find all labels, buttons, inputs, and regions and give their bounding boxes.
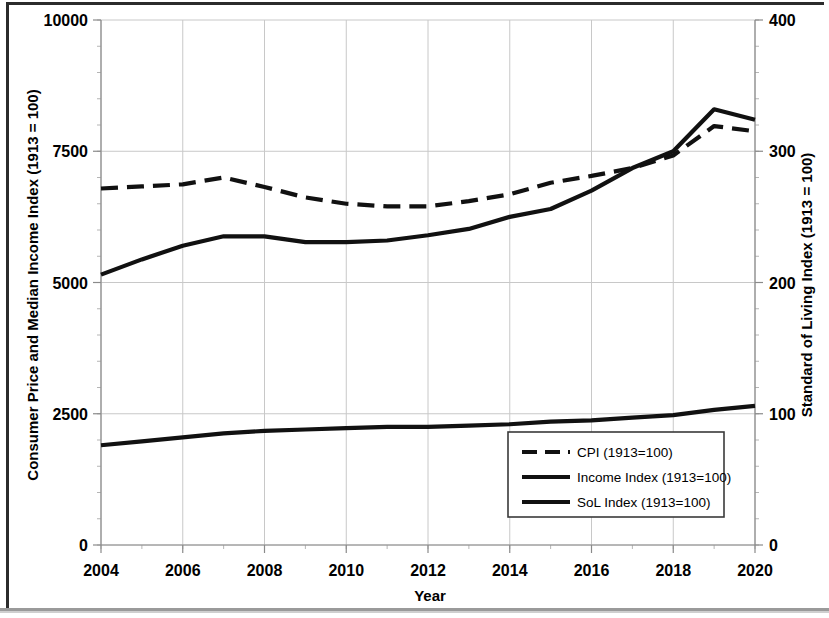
x-tick-label: 2018 [655, 562, 691, 579]
line-chart: 025005000750010000 0100200300400 2004200… [0, 0, 829, 618]
x-tick-label: 2016 [574, 562, 610, 579]
x-tick-label: 2020 [737, 562, 773, 579]
y2-axis-title: Standard of Living Index (1913 = 100) [798, 153, 815, 418]
y2-tick-label: 100 [769, 406, 796, 423]
y-tick-label: 0 [79, 537, 88, 554]
y2-tick-label: 0 [769, 537, 778, 554]
x-axis-tick-labels: 200420062008201020122014201620182020 [83, 562, 773, 579]
legend-label-2: SoL Index (1913=100) [577, 495, 710, 510]
legend-label-1: Income Index (1913=100) [577, 470, 731, 485]
y2-tick-label: 300 [769, 143, 796, 160]
chart-figure: 025005000750010000 0100200300400 2004200… [0, 0, 829, 618]
y2-tick-label: 400 [769, 12, 796, 29]
x-tick-label: 2012 [410, 562, 446, 579]
x-tick-label: 2014 [492, 562, 528, 579]
chart-legend[interactable]: CPI (1913=100)Income Index (1913=100)SoL… [508, 432, 731, 517]
y-tick-label: 2500 [52, 406, 88, 423]
y2-tick-label: 200 [769, 275, 796, 292]
legend-label-0: CPI (1913=100) [577, 445, 673, 460]
x-tick-label: 2010 [328, 562, 364, 579]
y-tick-label: 5000 [52, 275, 88, 292]
y-axis-tick-labels: 025005000750010000 [44, 12, 89, 554]
x-tick-label: 2006 [165, 562, 201, 579]
y2-axis-tick-labels: 0100200300400 [769, 12, 796, 554]
x-tick-label: 2008 [247, 562, 283, 579]
y-tick-label: 10000 [44, 12, 89, 29]
y-tick-label: 7500 [52, 143, 88, 160]
x-axis-title: Year [414, 587, 446, 604]
x-tick-label: 2004 [83, 562, 119, 579]
y-axis-title: Consumer Price and Median Income Index (… [24, 89, 41, 480]
